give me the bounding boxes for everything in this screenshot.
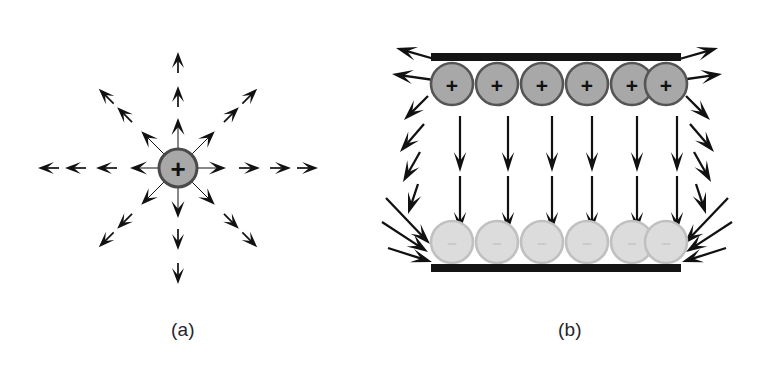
negative-charge-sign: –: [582, 234, 591, 253]
positive-charge-sign: +: [491, 74, 503, 97]
panel-b-caption: (b): [558, 319, 582, 340]
point-charge-plus-sign: +: [170, 154, 185, 184]
figure-canvas: + (a) ++++++–––––– (b): [0, 0, 764, 366]
panel-a-caption: (a): [171, 319, 195, 340]
positive-charge-sign: +: [446, 74, 458, 97]
positive-charge-sign: +: [626, 74, 638, 97]
point-charge: +: [159, 149, 197, 187]
bottom-plate: ––––––: [431, 221, 687, 272]
negative-charge-sign: –: [537, 234, 546, 253]
bottom-plate-bar: [431, 264, 681, 272]
negative-charge-sign: –: [661, 234, 670, 253]
electric-field-figure: + (a) ++++++–––––– (b): [0, 0, 764, 366]
positive-charge-sign: +: [581, 74, 593, 97]
negative-charge-sign: –: [492, 234, 501, 253]
top-plate-bar: [431, 53, 681, 61]
top-plate: ++++++: [431, 53, 687, 105]
negative-charge-sign: –: [627, 234, 636, 253]
positive-charge-sign: +: [660, 74, 672, 97]
positive-charge-sign: +: [536, 74, 548, 97]
negative-charge-sign: –: [447, 234, 456, 253]
